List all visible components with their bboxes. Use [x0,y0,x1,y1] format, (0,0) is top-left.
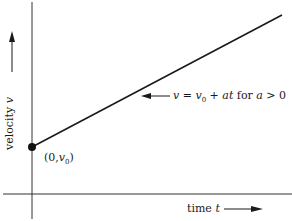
line-equation: v = v0 + at for a > 0 [173,89,286,104]
pt-open: (0, [44,151,59,164]
velocity-line [32,15,282,147]
annotation-arrow-head [141,93,151,99]
pt-close: ) [69,151,73,164]
eq-cond: > 0 [263,89,286,102]
y-axis-label: velocity v [3,97,16,150]
eq-for: for [233,89,256,102]
x-axis-var: t [215,202,219,215]
y-axis-label-text: velocity [3,107,16,150]
eq-eq: = [179,89,195,102]
intercept-label: (0,v0) [44,151,74,166]
x-label-arrow-head [251,206,263,212]
y-axis-var: v [3,97,16,103]
x-axis-label-text: time [187,202,212,215]
eq-plus: + [206,89,222,102]
x-axis-label: time t [187,202,220,215]
intercept-point [28,143,36,151]
eq-at: at [222,89,233,102]
y-label-arrow-head [9,31,15,42]
graph-canvas [0,0,292,221]
